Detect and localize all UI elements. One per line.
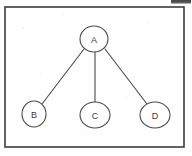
- node-label-d: D: [152, 111, 159, 121]
- edges-group: [42, 49, 147, 104]
- tree-diagram: ABCD: [0, 0, 192, 156]
- diagram-page: ABCD: [0, 0, 192, 156]
- node-a[interactable]: A: [80, 26, 108, 52]
- edge-a-b: [42, 49, 84, 104]
- nodes-group: ABCD: [22, 26, 170, 128]
- node-c[interactable]: C: [80, 102, 110, 128]
- node-label-b: B: [31, 110, 37, 120]
- node-d[interactable]: D: [140, 102, 170, 128]
- node-b[interactable]: B: [22, 101, 46, 127]
- edge-a-d: [105, 49, 147, 104]
- node-label-a: A: [91, 35, 97, 45]
- node-label-c: C: [92, 111, 99, 121]
